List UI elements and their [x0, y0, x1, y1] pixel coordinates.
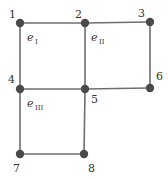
- node-6: [146, 84, 154, 92]
- node-label-4: 4: [8, 73, 15, 86]
- element-label-II: eII: [91, 31, 105, 46]
- element-subscript: III: [35, 104, 44, 112]
- node-label-3: 3: [138, 7, 145, 20]
- node-7: [16, 150, 24, 158]
- element-label-I: eI: [27, 31, 38, 46]
- mesh-graph: 12345678 eIeIIeIII: [0, 0, 168, 179]
- element-symbol: e: [27, 31, 34, 44]
- node-3: [146, 18, 154, 26]
- node-8: [80, 150, 88, 158]
- edge-5-8: [84, 89, 85, 154]
- node-label-2: 2: [75, 8, 82, 21]
- mesh-diagram: 12345678 eIeIIeIII: [0, 0, 168, 179]
- element-symbol: e: [91, 31, 98, 44]
- node-5: [81, 85, 89, 93]
- node-4: [16, 85, 24, 93]
- edge-2-3: [85, 22, 150, 23]
- node-label-1: 1: [9, 8, 16, 21]
- element-symbol: e: [27, 97, 34, 110]
- element-subscript: II: [99, 38, 105, 46]
- element-subscript: I: [35, 38, 38, 46]
- node-1: [16, 19, 24, 27]
- edge-5-6: [85, 88, 150, 89]
- element-label-III: eIII: [27, 97, 44, 112]
- node-2: [81, 19, 89, 27]
- node-label-8: 8: [88, 162, 95, 175]
- node-label-7: 7: [13, 162, 20, 175]
- node-label-5: 5: [91, 93, 98, 106]
- node-label-6: 6: [156, 70, 163, 83]
